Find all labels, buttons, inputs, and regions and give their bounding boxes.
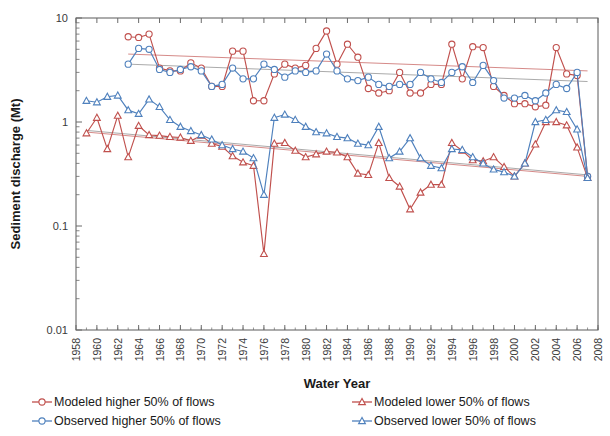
data-point-marker <box>156 66 162 72</box>
x-tick-label: 2008 <box>592 338 604 362</box>
x-tick-label: 2002 <box>529 338 541 362</box>
y-axis-title: Sediment discharge (Mt) <box>8 99 23 250</box>
data-point-marker <box>470 79 476 85</box>
data-point-marker <box>282 61 288 67</box>
data-point-marker <box>313 68 319 74</box>
legend-item-2[interactable]: Observed higher 50% of flows <box>32 414 221 428</box>
data-point-marker <box>39 399 45 405</box>
data-point-marker <box>240 48 246 54</box>
data-point-marker <box>428 76 434 82</box>
data-point-marker <box>39 418 45 424</box>
data-point-marker <box>230 65 236 71</box>
y-tick-label: 0.01 <box>47 324 68 336</box>
x-tick-label: 1986 <box>362 338 374 362</box>
data-point-marker <box>209 83 215 89</box>
x-tick-label: 1970 <box>195 338 207 362</box>
data-point-marker <box>261 98 267 104</box>
x-tick-label: 2000 <box>508 338 520 362</box>
x-tick-label: 1998 <box>488 338 500 362</box>
data-point-marker <box>522 92 528 98</box>
sediment-discharge-figure: 0.010.1110 19581960196219641966196819701… <box>0 0 610 436</box>
data-point-marker <box>480 44 486 50</box>
x-tick-label: 1988 <box>383 338 395 362</box>
x-tick-label: 1994 <box>446 338 458 362</box>
data-point-marker <box>250 98 256 104</box>
y-tick-label: 10 <box>56 12 68 24</box>
data-point-marker <box>543 102 549 108</box>
data-point-marker <box>407 81 413 87</box>
data-point-marker <box>574 69 580 75</box>
data-point-marker <box>344 41 350 47</box>
legend-group: Modeled higher 50% of flowsModeled lower… <box>32 395 536 428</box>
legend-label: Observed higher 50% of flows <box>54 414 221 428</box>
data-point-marker <box>323 51 329 57</box>
legend-label: Observed lower 50% of flows <box>374 414 536 428</box>
x-tick-label: 1958 <box>70 338 82 362</box>
data-point-marker <box>125 61 131 67</box>
y-tick-label: 0.1 <box>53 220 68 232</box>
legend-label: Modeled higher 50% of flows <box>54 395 215 409</box>
data-point-marker <box>334 68 340 74</box>
x-tick-label: 1980 <box>300 338 312 362</box>
x-tick-label: 1974 <box>237 338 249 362</box>
data-point-marker <box>553 81 559 87</box>
x-tick-label: 1972 <box>216 338 228 362</box>
data-point-marker <box>386 83 392 89</box>
x-tick-label: 1990 <box>404 338 416 362</box>
data-point-marker <box>261 61 267 67</box>
data-point-marker <box>313 45 319 51</box>
data-point-marker <box>323 28 329 34</box>
data-point-marker <box>230 48 236 54</box>
x-tick-label: 1982 <box>321 338 333 362</box>
data-point-marker <box>459 64 465 70</box>
data-point-marker <box>553 44 559 50</box>
data-point-marker <box>491 78 497 84</box>
x-tick-label: 1976 <box>258 338 270 362</box>
data-point-marker <box>417 90 423 96</box>
data-point-marker <box>459 76 465 82</box>
data-point-marker <box>292 68 298 74</box>
legend-label: Modeled lower 50% of flows <box>374 395 530 409</box>
data-point-marker <box>282 74 288 80</box>
x-tick-label: 1984 <box>341 338 353 362</box>
data-point-marker <box>365 74 371 80</box>
x-tick-label: 2004 <box>550 338 562 362</box>
x-tick-label: 1964 <box>133 338 145 362</box>
data-point-marker <box>240 76 246 82</box>
x-tick-label: 2006 <box>571 338 583 362</box>
data-point-marker <box>250 76 256 82</box>
data-point-marker <box>167 69 173 75</box>
legend-item-3[interactable]: Observed lower 50% of flows <box>352 414 536 428</box>
legend-item-1[interactable]: Modeled lower 50% of flows <box>352 395 530 409</box>
data-point-marker <box>511 95 517 101</box>
y-tick-label: 1 <box>62 116 68 128</box>
data-point-marker <box>501 95 507 101</box>
data-point-marker <box>146 46 152 52</box>
legend-item-0[interactable]: Modeled higher 50% of flows <box>32 395 215 409</box>
data-point-marker <box>438 79 444 85</box>
x-tick-label: 1996 <box>467 338 479 362</box>
x-tick-label: 1978 <box>279 338 291 362</box>
chart-canvas: 0.010.1110 19581960196219641966196819701… <box>0 0 610 436</box>
data-point-marker <box>449 41 455 47</box>
data-point-marker <box>303 62 309 68</box>
data-point-marker <box>355 78 361 84</box>
data-point-marker <box>177 66 183 72</box>
data-point-marker <box>407 90 413 96</box>
x-axis-title: Water Year <box>304 376 371 391</box>
data-point-marker <box>449 69 455 75</box>
data-point-marker <box>532 98 538 104</box>
x-tick-label: 1960 <box>91 338 103 362</box>
data-point-marker <box>344 76 350 82</box>
data-point-marker <box>376 90 382 96</box>
x-tick-label: 1992 <box>425 338 437 362</box>
data-point-marker <box>564 71 570 77</box>
data-point-marker <box>271 66 277 72</box>
data-point-marker <box>470 44 476 50</box>
data-point-marker <box>543 90 549 96</box>
data-point-marker <box>365 85 371 91</box>
x-tick-label: 1968 <box>174 338 186 362</box>
data-point-marker <box>564 85 570 91</box>
x-tick-label: 1962 <box>112 338 124 362</box>
data-point-marker <box>198 68 204 74</box>
